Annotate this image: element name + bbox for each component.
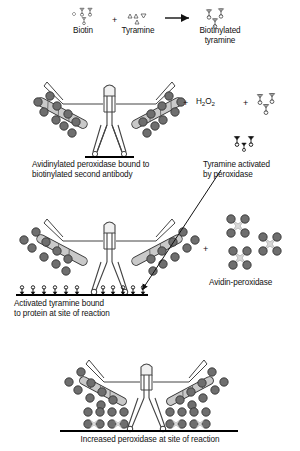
panel3-antibody-complex [16,170,221,295]
diagram-canvas: Biotin + Tyramine Biotinylated tyramine … [0,0,300,451]
avidin-peroxidase-cluster [227,215,281,269]
primary-antibody-icon [85,85,134,157]
panel1-antibody-complex [34,82,185,157]
activated-tyramine-icon [234,137,253,152]
panel1-plus-a: + [183,98,188,108]
secondary-antibody-left-arm [35,82,103,130]
panel1-side-biotinylated-tyramine-icon [257,94,274,115]
diagram-vector-layer [0,0,300,451]
h2o2-sub-1: 2 [202,100,205,107]
panel1-plus-b: + [243,98,248,108]
avidin-peroxidase-label: Avidin-peroxidase [209,278,272,288]
reaction-plus-1: + [112,15,117,25]
diagonal-arrow-icon [142,170,221,290]
h2o2-formula: H2O2 [196,97,215,108]
final-substrate-line [60,408,238,431]
h2o2-sub-2: 2 [211,100,214,107]
substrate-line-with-bound-tyramine [16,286,148,295]
biotinylated-tyramine-label: Biotinylated tyramine [190,26,250,45]
secondary-antibody-right-arm [116,82,184,130]
panel3-plus: + [203,244,208,254]
panel2-caption: Tyramine activated by peroxidase [203,160,298,179]
panel3-caption: Activated tyramine bound to protein at s… [14,299,154,318]
primary-antibody-icon-2 [91,222,128,295]
primary-antibody-icon-3 [127,364,166,432]
surface-peroxidase-left [84,408,128,429]
tyramine-label: Tyramine [113,26,163,36]
surface-peroxidase-right [166,408,210,429]
panel4-antibody-complex [60,360,238,432]
panel4-caption: Increased peroxidase at site of reaction [40,435,260,445]
biotin-cluster-icon [72,8,92,24]
panel1-caption: Avidinylated peroxidase bound to biotiny… [32,160,167,179]
biotin-label: Biotin [60,26,106,36]
tyramine-triangle-cluster-icon [128,14,146,24]
